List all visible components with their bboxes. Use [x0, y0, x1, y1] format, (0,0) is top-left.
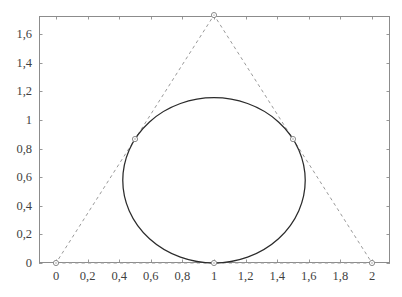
incircle-series — [123, 98, 305, 263]
x-tick-label: 1,4 — [269, 270, 285, 283]
x-tick-label: 0,2 — [80, 270, 96, 283]
x-tick-label: 1 — [211, 270, 217, 283]
y-tick-label: 1,4 — [0, 56, 32, 69]
x-tick-label: 1,2 — [238, 270, 254, 283]
x-tick-label: 0 — [53, 270, 59, 283]
marker-tangent-right — [290, 136, 295, 141]
x-tick-label: 2 — [369, 270, 375, 283]
x-tick-label: 1,8 — [333, 270, 349, 283]
marker-vertex-origin — [53, 260, 58, 265]
y-tick-label: 0,4 — [0, 200, 32, 213]
data-point-markers — [53, 12, 374, 265]
marker-vertex-apex — [211, 12, 216, 17]
x-tick-label: 0,8 — [175, 270, 191, 283]
y-tick-label: 0,2 — [0, 228, 32, 241]
axis-ticks — [39, 16, 390, 264]
y-tick-label: 1,2 — [0, 85, 32, 98]
x-tick-label: 1,6 — [301, 270, 317, 283]
marker-tangent-left — [132, 136, 137, 141]
x-tick-label: 0,6 — [143, 270, 159, 283]
y-tick-label: 1,6 — [0, 28, 32, 41]
y-tick-label: 0,8 — [0, 142, 32, 155]
marker-tangent-bottom — [211, 260, 216, 265]
x-tick-label: 0,4 — [111, 270, 127, 283]
y-tick-label: 0,6 — [0, 171, 32, 184]
plot-canvas — [0, 0, 402, 297]
plot-frame — [40, 17, 390, 263]
chart-figure: 00,20,40,60,811,21,41,6 00,20,40,60,811,… — [0, 0, 402, 297]
triangle-series — [56, 15, 372, 263]
marker-vertex-right — [369, 260, 374, 265]
y-tick-label: 1 — [0, 114, 32, 127]
y-tick-label: 0 — [0, 257, 32, 270]
